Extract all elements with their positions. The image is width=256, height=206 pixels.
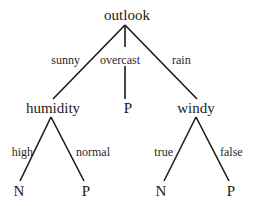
edge-label-true: true [154, 145, 173, 159]
decision-tree-diagram: outlook sunny overcast rain humidity P w… [0, 0, 256, 206]
edge-label-overcast: overcast [100, 53, 141, 67]
leaf-high-n: N [14, 183, 25, 199]
leaf-normal-p: P [82, 183, 90, 199]
leaf-false-p: P [227, 183, 235, 199]
leaf-overcast-p: P [124, 100, 132, 116]
leaf-true-n: N [156, 183, 167, 199]
node-humidity: humidity [26, 100, 81, 116]
edge-label-sunny: sunny [51, 53, 80, 67]
edge-label-rain: rain [172, 53, 191, 67]
node-windy: windy [177, 100, 215, 116]
edge-label-false: false [220, 145, 243, 159]
edge-label-normal: normal [76, 145, 111, 159]
edge-label-high: high [12, 145, 33, 159]
root-node-outlook: outlook [104, 7, 150, 23]
